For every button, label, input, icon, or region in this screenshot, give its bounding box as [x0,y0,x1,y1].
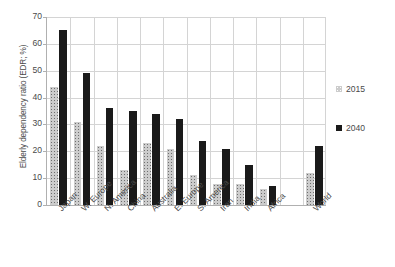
bar-group [190,17,207,205]
legend-item-2040: 2040 [336,124,365,133]
y-tick-mark [43,151,47,152]
legend-swatch-icon [336,86,342,92]
gridline-vertical [187,17,188,205]
y-tick-label: 50 [22,66,42,75]
y-tick-label: 30 [22,119,42,128]
gridline-vertical [163,17,164,205]
bar-group [120,17,137,205]
bar-chart: Elderly dependency ratio (EDR; %) 010203… [0,0,395,267]
bar-group [50,17,67,205]
y-tick-label: 60 [22,39,42,48]
y-tick-label: 0 [22,200,42,209]
y-tick-label: 20 [22,146,42,155]
bar-2015 [260,189,268,205]
bar-2015 [50,87,58,205]
legend-label: 2040 [346,124,365,133]
bar-2040 [152,114,160,205]
legend-item-2015: 2015 [336,85,365,94]
bar-2015 [236,184,244,205]
gridline-vertical [280,17,281,205]
plot-area [46,17,326,206]
gridline-vertical [233,17,234,205]
y-tick-mark [43,71,47,72]
gridline-vertical [94,17,95,205]
bar-2015 [306,173,314,205]
gridline-vertical [70,17,71,205]
gridline-vertical [140,17,141,205]
bar-group [213,17,230,205]
gridline-vertical [117,17,118,205]
y-tick-label: 10 [22,173,42,182]
bar-group [306,17,323,205]
y-tick-mark [43,124,47,125]
y-axis-tick-labels: 010203040506070 [20,0,42,267]
bar-group [143,17,160,205]
bar-2040 [83,73,91,205]
bar-group [74,17,91,205]
y-tick-mark [43,17,47,18]
y-tick-mark [43,44,47,45]
bar-group [236,17,253,205]
y-tick-mark [43,98,47,99]
bar-group [260,17,277,205]
gridline-vertical [256,17,257,205]
y-tick-label: 70 [22,12,42,21]
x-axis-tick-labels: JapanW. EuropeN. AmericaChinaAustraliaE.… [46,206,325,267]
gridline-vertical [303,17,304,205]
legend-label: 2015 [346,85,365,94]
bar-group [97,17,114,205]
y-tick-label: 40 [22,93,42,102]
plot-right-edge [325,17,326,205]
y-tick-mark [43,178,47,179]
bar-group [167,17,184,205]
legend-swatch-icon [336,125,342,131]
bar-2040 [59,30,67,205]
gridline-vertical [210,17,211,205]
